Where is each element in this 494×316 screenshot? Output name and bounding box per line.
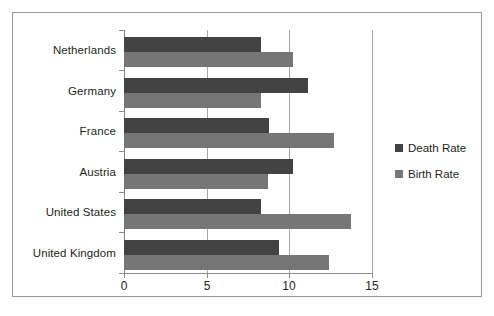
y-tick-bottom [119, 273, 124, 274]
category-label-france: France [0, 125, 116, 137]
x-tick-10 [289, 273, 290, 278]
category-label-germany: Germany [0, 85, 116, 97]
y-tick-3 [119, 151, 124, 152]
bar-birth-united-states [124, 214, 351, 229]
y-tick-5 [119, 232, 124, 233]
bar-birth-france [124, 133, 334, 148]
y-tick-1 [119, 70, 124, 71]
legend-label-death-rate: Death Rate [408, 142, 466, 154]
y-tick-top [119, 30, 124, 31]
bar-death-netherlands [124, 37, 261, 52]
plot-area: 0 5 10 15 Netherlands Germany France Aus… [13, 13, 483, 298]
bar-birth-netherlands [124, 52, 293, 67]
bar-birth-united-kingdom [124, 255, 329, 270]
legend-swatch-icon-death-rate [395, 144, 403, 152]
bar-death-austria [124, 159, 293, 174]
bar-birth-austria [124, 174, 268, 189]
x-tick-label-0: 0 [104, 279, 144, 293]
x-tick-0 [124, 273, 125, 278]
legend-item-death-rate: Death Rate [395, 142, 481, 154]
gridline-15 [372, 30, 373, 273]
x-tick-label-10: 10 [269, 279, 309, 293]
category-label-united-kingdom: United Kingdom [0, 247, 116, 259]
bar-birth-germany [124, 93, 261, 108]
chart-frame: 0 5 10 15 Netherlands Germany France Aus… [12, 12, 482, 297]
legend-swatch-icon-birth-rate [395, 170, 403, 178]
chart-legend: Death Rate Birth Rate [395, 142, 481, 194]
x-tick-5 [207, 273, 208, 278]
y-tick-4 [119, 192, 124, 193]
category-label-united-states: United States [0, 206, 116, 218]
x-tick-label-5: 5 [187, 279, 227, 293]
bar-death-france [124, 118, 269, 133]
bar-death-germany [124, 78, 308, 93]
bar-death-united-kingdom [124, 240, 279, 255]
x-tick-15 [372, 273, 373, 278]
category-label-austria: Austria [0, 166, 116, 178]
category-label-netherlands: Netherlands [0, 44, 116, 56]
legend-item-birth-rate: Birth Rate [395, 168, 481, 180]
legend-label-birth-rate: Birth Rate [408, 168, 459, 180]
x-tick-label-15: 15 [352, 279, 392, 293]
y-tick-2 [119, 111, 124, 112]
x-axis-line [124, 273, 373, 274]
bar-death-united-states [124, 199, 261, 214]
